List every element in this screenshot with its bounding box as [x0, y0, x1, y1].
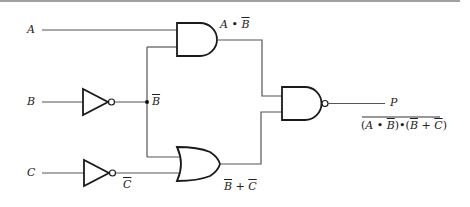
- nand-gate-icon: [282, 87, 322, 120]
- and-gate-icon: [177, 23, 217, 56]
- nand-gate-bubble: [322, 101, 328, 107]
- inverter-b-bubble: [109, 99, 115, 105]
- label-b-bar: B: [152, 96, 160, 107]
- expr-c-bar: C: [434, 119, 442, 132]
- label-and-output: A • B: [220, 19, 250, 30]
- expr-b-bar-1: B: [387, 119, 395, 132]
- junction-dot: [145, 100, 149, 104]
- and-out-b-bar: B: [241, 18, 249, 31]
- logic-circuit-diagram: [0, 0, 470, 207]
- and-out-a: A •: [220, 18, 241, 31]
- wire-or-out: [220, 112, 282, 164]
- expr-dot: •: [373, 119, 386, 132]
- label-input-a: A: [27, 24, 35, 35]
- wire-and-out: [217, 40, 282, 96]
- or-out-plus: +: [232, 180, 248, 193]
- inverter-b-icon: [83, 89, 108, 115]
- or-out-b-bar: B: [224, 180, 232, 193]
- label-input-b: B: [27, 96, 35, 107]
- expr-plus: +: [418, 119, 434, 132]
- label-or-output: B + C: [224, 181, 257, 192]
- expr-b-bar-2: B: [410, 119, 418, 132]
- label-c-bar: C: [123, 179, 131, 190]
- inverter-c-icon: [84, 160, 109, 186]
- inverter-c-bubble: [110, 170, 116, 176]
- expr-mid: )•(: [395, 119, 410, 132]
- or-out-c-bar: C: [248, 180, 256, 193]
- or-gate-icon: [177, 147, 220, 181]
- output-expression: (A • B)•(B + C): [361, 120, 447, 131]
- expr-close-paren: ): [443, 119, 447, 132]
- label-output-p: P: [390, 97, 397, 108]
- label-input-c: C: [27, 167, 35, 178]
